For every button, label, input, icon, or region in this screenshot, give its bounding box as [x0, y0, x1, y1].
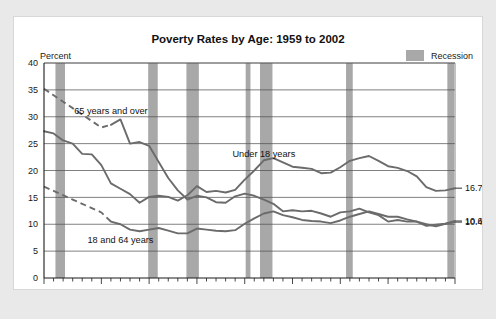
recession-legend-label: Recession	[431, 51, 473, 61]
series-line	[111, 211, 455, 233]
series-annotation: 18 and 64 years	[88, 235, 154, 245]
x-axis-tick-label: 1990	[330, 288, 350, 289]
x-axis-tick-label: 1970	[139, 288, 159, 289]
y-axis-tick-label: 20	[28, 166, 38, 176]
series-line	[111, 119, 455, 225]
x-axis-tick-label: 1985	[282, 288, 302, 289]
recession-legend-swatch	[406, 50, 424, 61]
chart-card: Poverty Rates by Age: 1959 to 2002 Perce…	[14, 17, 482, 289]
x-axis-ticks	[44, 278, 455, 284]
y-axis-tick-label: 10	[28, 219, 38, 229]
y-axis-tick-label: 40	[28, 58, 38, 68]
y-axis-tick-labels: 0510152025303540	[28, 58, 38, 283]
x-axis-tick-label: 1975	[187, 288, 207, 289]
end-value-label: 16.7%	[465, 183, 482, 193]
legend: Recession	[406, 50, 473, 61]
series-line-dashed	[44, 187, 111, 222]
x-axis-tick-label: 1980	[235, 288, 255, 289]
y-axis-tick-label: 5	[33, 246, 38, 256]
x-axis-tick-label: 1965	[91, 288, 111, 289]
y-axis-tick-label: 0	[33, 273, 38, 283]
x-axis-tick-label: 1959	[34, 288, 54, 289]
poverty-rates-line-chart: Poverty Rates by Age: 1959 to 2002 Perce…	[14, 17, 482, 289]
series-annotation: Under 18 years	[232, 149, 295, 159]
y-axis-tick-label: 35	[28, 85, 38, 95]
x-axis-tick-label: 1995	[378, 288, 398, 289]
y-axis-tick-label: 30	[28, 112, 38, 122]
x-axis-tick-label: 2002	[445, 288, 465, 289]
chart-title: Poverty Rates by Age: 1959 to 2002	[151, 33, 344, 45]
y-axis-unit-label: Percent	[40, 51, 72, 61]
end-value-labels: 16.7%10.6%10.4%	[455, 183, 482, 227]
end-value-label: 10.4%	[465, 217, 482, 227]
y-axis-tick-label: 15	[28, 193, 38, 203]
series-annotation: 65 years and over	[74, 106, 148, 116]
screenshot-root: Poverty Rates by Age: 1959 to 2002 Perce…	[0, 0, 496, 319]
y-axis-tick-label: 25	[28, 139, 38, 149]
x-axis-tick-labels: 195919651970197519801985199019952002	[34, 288, 465, 289]
